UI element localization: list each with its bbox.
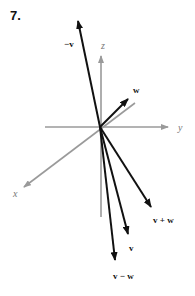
neg-v-label: −v: [64, 39, 74, 49]
w-label: w: [133, 85, 140, 95]
v-minus-w-label: v − w: [113, 271, 134, 281]
vector-diagram: z y x −v w v + w v v − w: [0, 0, 195, 296]
z-axis-label: z: [100, 40, 105, 51]
vector-neg-v: [78, 21, 100, 127]
v-label: v: [129, 243, 134, 253]
vector-v: [100, 127, 128, 234]
v-plus-w-label: v + w: [153, 215, 174, 225]
vector-w: [100, 99, 128, 127]
y-axis-label: y: [177, 122, 183, 133]
x-axis: [24, 103, 135, 187]
x-axis-label: x: [12, 188, 18, 199]
